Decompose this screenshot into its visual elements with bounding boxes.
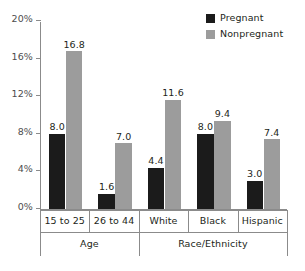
y-tick-label-8: 8% [18,127,33,137]
y-tick-label-0: 0% [18,202,33,212]
bar-nonpregnant-26-to-44 [115,143,132,209]
y-tick-label-4: 4% [18,164,33,174]
bar-chart: Pregnant Nonpregnant 20% 16% 12% 8% 4% 0… [0,0,305,271]
category-label-white: White [139,215,188,226]
category-label-black: Black [188,215,237,226]
axis-table-right-edge [287,210,288,256]
axis-table-top-rule [40,210,287,211]
group-label-race-ethnicity: Race/Ethnicity [139,238,287,249]
bar-value-pregnant-hispanic: 3.0 [241,169,269,179]
bar-nonpregnant-black [214,121,231,209]
bar-value-nonpregnant-26-to-44: 7.0 [110,132,138,142]
bar-pregnant-black [197,134,214,209]
category-label-26-to-44: 26 to 44 [89,215,138,226]
y-tick-label-16: 16% [12,52,33,62]
bar-value-pregnant-white: 4.4 [142,156,170,166]
bar-pregnant-15-to-25 [49,134,66,209]
bar-pregnant-hispanic [247,181,264,209]
y-tick-0: 0% [36,208,41,209]
plot-area: 20% 16% 12% 8% 4% 0% 8.0 16.8 1.6 7.0 [40,22,287,210]
group-label-age: Age [40,238,139,249]
bar-value-nonpregnant-white: 11.6 [159,88,187,98]
y-tick-20: 20% [36,20,41,21]
bar-value-nonpregnant-hispanic: 7.4 [258,128,286,138]
bar-value-pregnant-black: 8.0 [191,122,219,132]
category-label-15-to-25: 15 to 25 [40,215,89,226]
y-tick-12: 12% [36,95,41,96]
bar-nonpregnant-white [165,100,182,209]
bar-value-pregnant-26-to-44: 1.6 [93,182,121,192]
bar-pregnant-26-to-44 [98,194,115,209]
y-tick-4: 4% [36,170,41,171]
bar-value-pregnant-15-to-25: 8.0 [43,122,71,132]
category-label-hispanic: Hispanic [238,215,287,226]
bar-value-nonpregnant-15-to-25: 16.8 [60,40,88,50]
axis-label-table: 15 to 25 26 to 44 White Black Hispanic A… [40,210,287,256]
y-tick-8: 8% [36,133,41,134]
bar-value-nonpregnant-black: 9.4 [208,109,236,119]
y-tick-label-12: 12% [12,89,33,99]
axis-table-mid-rule [40,232,287,233]
bar-pregnant-white [148,168,165,209]
y-tick-16: 16% [36,58,41,59]
y-tick-label-20: 20% [12,14,33,24]
